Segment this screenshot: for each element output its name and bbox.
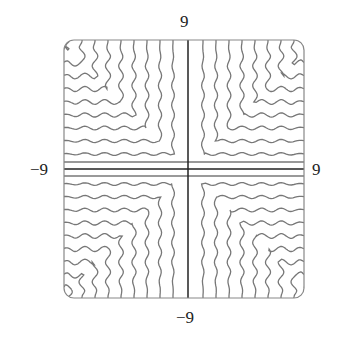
level-curve — [64, 247, 111, 299]
level-curve — [64, 40, 174, 155]
level-curve — [266, 40, 305, 92]
level-curve — [64, 40, 111, 92]
level-curve — [253, 40, 304, 104]
level-curve — [304, 287, 310, 298]
level-curve-plot — [0, 0, 350, 343]
level-curve — [278, 259, 304, 298]
level-curve — [253, 234, 304, 298]
level-curve — [64, 40, 98, 79]
level-curve — [64, 221, 136, 298]
